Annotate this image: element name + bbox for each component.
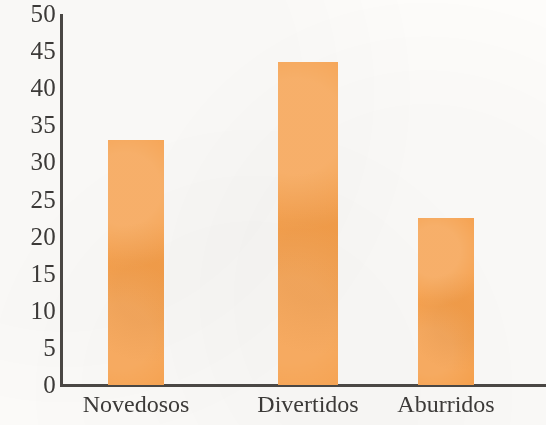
y-axis-tick-label: 15 [4, 261, 56, 286]
y-axis-tick-label: 30 [4, 149, 56, 174]
bar [278, 62, 338, 385]
x-axis-category-label: Novedosos [46, 392, 226, 416]
y-axis-tick-label: 20 [4, 224, 56, 249]
y-axis-tick-label: 25 [4, 187, 56, 212]
plot-area [63, 14, 546, 385]
y-axis-tick-label: 40 [4, 75, 56, 100]
y-axis-tick-label: 35 [4, 112, 56, 137]
y-axis-tick-label: 10 [4, 298, 56, 323]
x-axis-category-label: Aburridos [356, 392, 536, 416]
y-axis-tick-label: 5 [4, 335, 56, 360]
y-axis-tick-label: 45 [4, 38, 56, 63]
bar [108, 140, 164, 385]
y-axis-tick-label: 50 [4, 1, 56, 26]
bar-chart: 50454035302520151050 NovedososDivertidos… [0, 0, 546, 425]
bar [418, 218, 474, 385]
y-axis-tick-labels: 50454035302520151050 [0, 0, 56, 425]
